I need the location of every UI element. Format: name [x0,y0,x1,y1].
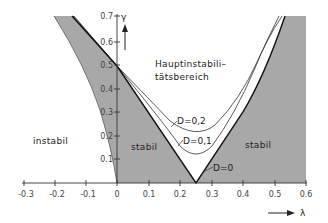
main-instability-label-line1: Hauptinstabili– [155,59,227,69]
d0-label: D=0 [213,163,233,173]
x-tick-label: -0.1 [80,190,96,199]
y-tick-label: 0.6 [100,38,113,47]
y-tick-label: 0.5 [100,61,113,70]
x-tick-label: -0.3 [18,190,34,199]
x-tick-label: 0.1 [143,190,156,199]
x-tick-label: -0.2 [49,190,65,199]
stability-chart: -0.3 -0.2 -0.1 0 0.1 0.2 0.3 0.4 0.5 0.6… [0,0,328,223]
x-tick-label: 0.2 [174,190,187,199]
y-tick-label: 0.4 [100,85,113,94]
x-tick-label: 0.4 [237,190,250,199]
x-axis-arrow-icon [268,210,295,216]
d01-label: D=0,1 [183,136,212,146]
x-tick-label: 0.5 [269,190,282,199]
y-axis-label: γ [121,12,127,22]
x-tick-label: 0.6 [300,190,313,199]
stabil-right-label: stabil [245,140,271,150]
y-tick-label: 0.7 [100,12,113,21]
y-tick-label: 0.2 [100,132,113,141]
main-instability-label-line2: tätsbereich [155,72,209,82]
x-axis-label: λ [300,208,306,218]
stabil-left-label: stabil [131,142,157,152]
x-tick-label: 0 [114,190,119,199]
x-tick-label: 0.3 [206,190,219,199]
y-axis-arrow-icon [122,24,128,50]
y-tick-label: 0.1 [100,155,113,164]
instabil-label: instabil [33,136,68,146]
d02-label: D=0,2 [177,116,206,126]
y-tick-label: 0.3 [100,108,113,117]
x-tick-labels: -0.3 -0.2 -0.1 0 0.1 0.2 0.3 0.4 0.5 0.6 [18,190,312,199]
